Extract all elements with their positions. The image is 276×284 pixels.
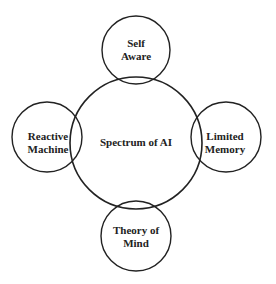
spectrum-of-ai-diagram: Spectrum of AI Self Aware Reactive Machi… [0,0,276,284]
right-label-line1: Limited [206,130,243,142]
left-label-line2: Machine [28,143,69,155]
top-label-line1: Self [127,37,145,49]
bottom-circle [101,201,171,271]
right-label-line2: Memory [205,143,246,155]
center-label: Spectrum of AI [100,136,172,148]
bottom-label-line2: Mind [123,237,149,249]
left-label-line1: Reactive [28,130,68,142]
top-label-line2: Aware [121,50,151,62]
bottom-label-line1: Theory of [113,224,159,236]
